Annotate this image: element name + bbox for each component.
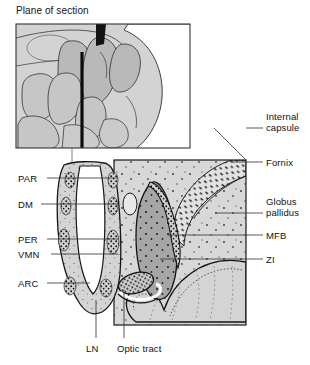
label-VMN: VMN [18,249,39,260]
label-globus-pallidus-line1: Globus [266,196,297,207]
label-MFB: MFB [266,230,286,241]
cluster-DM-right [108,197,118,215]
label-fornix: Fornix [266,157,293,168]
label-globus-pallidus: Globuspallidus [266,196,299,218]
label-DM: DM [18,199,33,210]
label-optic-tract: Optic tract [117,343,161,354]
label-PER: PER [18,234,38,245]
cluster-PAR-left [65,172,75,188]
pale-oval-nucleus [123,193,137,215]
label-ZI: ZI [266,254,275,265]
inset-panel [16,24,192,150]
cluster-PER-left [59,229,70,251]
figure-title: Plane of section [16,5,89,16]
label-ARC: ARC [18,278,38,289]
cluster-VMN [107,230,119,254]
label-LN: LN [86,343,98,354]
cluster-ARC-right [100,279,112,297]
cluster-PAR-right [108,172,118,188]
label-PAR: PAR [18,173,37,184]
cluster-ARC-left [64,277,76,295]
label-internal-capsule-line1: Internal [266,111,299,122]
diagram-artwork [0,0,310,365]
label-internal-capsule-line2: capsule [266,122,299,133]
label-internal-capsule: Internalcapsule [266,111,299,133]
cluster-DM-left [61,197,71,215]
anatomical-figure: Plane of section PAR DM PER VMN ARC Inte… [0,0,310,365]
label-globus-pallidus-line2: pallidus [266,207,299,218]
